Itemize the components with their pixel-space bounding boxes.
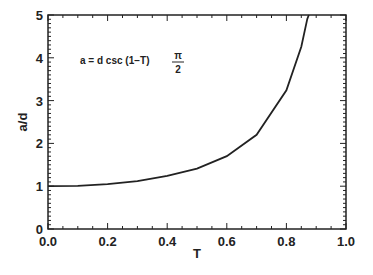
x-tick-label: 0.6 [218, 234, 236, 249]
y-tick-label: 1 [36, 179, 43, 194]
y-axis-label: a/d [15, 113, 30, 132]
svg-text:π: π [174, 50, 182, 61]
x-tick-label: 0.4 [158, 234, 177, 249]
y-tick-label: 2 [36, 136, 43, 151]
x-tick-label: 0.8 [277, 234, 295, 249]
y-tick-label: 5 [36, 8, 43, 23]
x-axis-label: T [193, 246, 201, 261]
x-tick-label: 0.2 [99, 234, 117, 249]
data-line [48, 15, 309, 186]
y-tick-label: 3 [36, 94, 43, 109]
y-tick-label: 0 [36, 222, 43, 237]
formula-annotation: a = d csc (1−T) π 2 [80, 50, 184, 75]
y-tick-label: 4 [36, 51, 44, 66]
y-tick-labels: 012345 [36, 8, 44, 237]
x-tick-label: 1.0 [337, 234, 355, 249]
svg-text:a = d csc (1−T): a = d csc (1−T) [80, 55, 149, 66]
svg-text:2: 2 [175, 64, 181, 75]
chart: 0.00.20.40.60.81.0 012345 T a/d a = d cs… [0, 0, 373, 275]
